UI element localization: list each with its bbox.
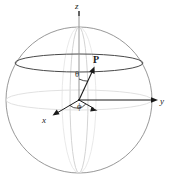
- y-axis-arrowhead: [151, 97, 158, 103]
- x-axis-line: [56, 100, 79, 114]
- azimuth-angle-label: ϕ: [77, 102, 81, 111]
- x-axis-label: x: [42, 116, 46, 125]
- polar-angle-label: θ: [75, 70, 79, 79]
- x-axis-arrowhead: [53, 110, 60, 116]
- polar-angle-arc: [79, 79, 88, 81]
- z-axis-label: z: [75, 2, 79, 11]
- spherical-coordinates-figure: z y x P θ ϕ: [0, 0, 179, 180]
- radius-vector-line: [79, 72, 92, 100]
- point-p-label: P: [93, 55, 99, 65]
- y-axis-label: y: [160, 97, 164, 106]
- sphere-diagram-svg: [0, 0, 179, 180]
